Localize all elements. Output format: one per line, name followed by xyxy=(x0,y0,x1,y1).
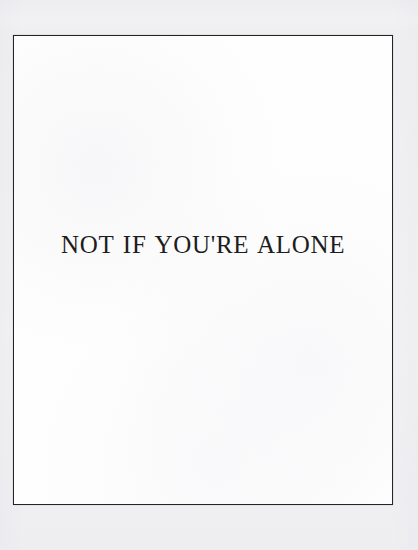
plate-interior-field xyxy=(14,36,392,504)
caption-text: NOT IF YOU'RE ALONE xyxy=(61,232,345,257)
framed-plate: NOT IF YOU'RE ALONE xyxy=(13,35,393,505)
scanned-page: NOT IF YOU'RE ALONE xyxy=(0,0,418,550)
caption-block: NOT IF YOU'RE ALONE xyxy=(14,232,392,257)
